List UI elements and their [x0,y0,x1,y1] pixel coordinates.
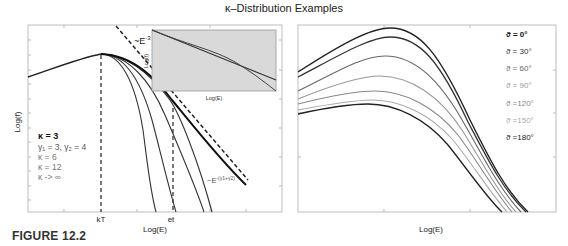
legend-theta-60: ϑ = 60° [506,64,532,73]
power-law-annotation: ~E-3 [134,35,151,46]
left-y-axis-label: Log(f) [13,111,22,132]
curve-theta-0 [298,28,528,212]
legend-theta-180: ϑ =180° [506,133,534,142]
curve-theta-150 [298,100,507,212]
broken-power-law-annotation: ~E-(γ1+γ2) [207,175,235,185]
curve-common-rise [28,54,101,77]
legend-kappa-12: κ = 12 [38,162,62,172]
x-tick-et: et [168,215,175,224]
legend-theta-0: ϑ = 0° [506,30,527,39]
right-legend: ϑ = 0° ϑ = 30° ϑ = 60° ϑ = 90° ϑ =120° ϑ… [506,30,534,142]
legend-theta-120: ϑ =120° [506,99,534,108]
inset-frame [152,30,276,91]
legend-theta-150: ϑ =150° [506,116,534,125]
inset-x-label: Log(E) [206,95,223,101]
figure-caption: FIGURE 12.2 [12,229,86,243]
curve-theta-60 [298,56,521,212]
legend-kappa-inf: κ -> ∞ [38,172,61,182]
legend-theta-90: ϑ = 90° [506,81,532,90]
x-tick-kT: kT [97,215,106,224]
right-x-axis-label: Log(E) [419,225,443,234]
inset-plot: Log(E) Log(f) [143,30,276,101]
curve-theta-180 [298,104,502,212]
curve-kappa-inf [101,54,156,212]
left-x-axis-label: Log(E) [143,225,167,234]
left-legend: κ = 3 γ₁ = 3, γ₂ = 4 κ = 6 κ = 12 κ -> ∞ [38,131,86,182]
legend-kappa-3: κ = 3 [38,131,58,141]
legend-theta-30: ϑ = 30° [506,47,532,56]
legend-broken: γ₁ = 3, γ₂ = 4 [38,142,86,152]
legend-kappa-6: κ = 6 [38,152,57,162]
inset-y-label: Log(f) [143,54,149,69]
figure-canvas: ~E-3 ~E-(γ1+γ2) κ = 3 γ₁ = 3, γ₂ = 4 κ =… [0,0,568,246]
left-panel: ~E-3 ~E-(γ1+γ2) κ = 3 γ₁ = 3, γ₂ = 4 κ =… [13,25,282,234]
right-panel: ϑ = 0° ϑ = 30° ϑ = 60° ϑ = 90° ϑ =120° ϑ… [298,25,556,234]
